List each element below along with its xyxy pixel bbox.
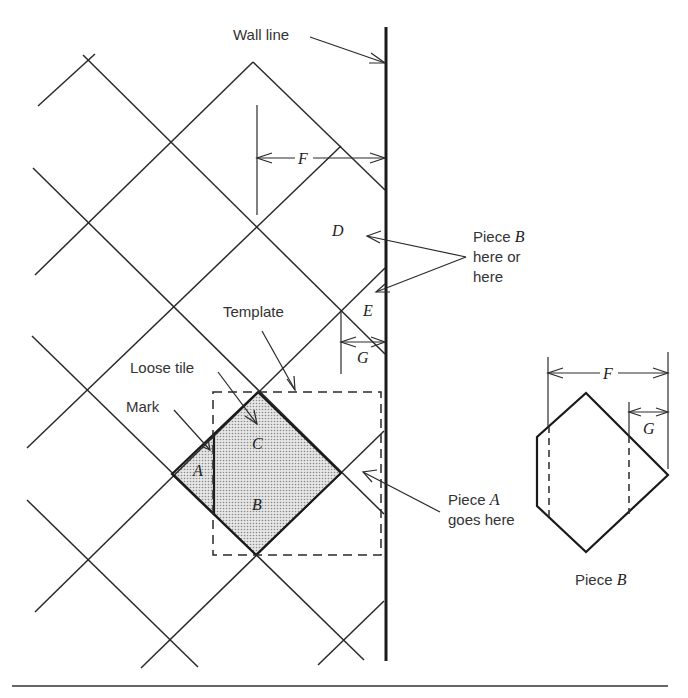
tile-layout-diagram: F G Wall line D E Piece B here or here T… (0, 0, 688, 698)
template-label: Template (223, 303, 284, 320)
label-F: F (297, 150, 308, 167)
piece-b-detail: F G Piece B (537, 352, 668, 588)
label-D: D (331, 222, 344, 239)
label-A: A (192, 462, 203, 479)
label-C: C (252, 435, 263, 452)
loose-tile-label: Loose tile (130, 359, 194, 376)
svg-text:goes here: goes here (448, 511, 515, 528)
detail-label-G: G (643, 420, 655, 437)
piece-b-here-callout: Piece B here or here (367, 228, 525, 292)
wall-line-label: Wall line (233, 26, 289, 43)
svg-text:Piece B: Piece B (473, 228, 525, 245)
dimension-F: F (257, 105, 385, 215)
mark-label: Mark (126, 398, 160, 415)
svg-text:here: here (473, 268, 503, 285)
label-B: B (252, 496, 262, 513)
label-E: E (362, 302, 373, 319)
tile-grid (27, 54, 385, 668)
dimension-G: G (341, 310, 385, 374)
label-G: G (357, 349, 369, 366)
svg-text:Piece A: Piece A (448, 491, 500, 508)
svg-text:here or: here or (473, 248, 521, 265)
detail-label-F: F (602, 365, 613, 382)
piece-b-caption: Piece B (575, 571, 627, 588)
